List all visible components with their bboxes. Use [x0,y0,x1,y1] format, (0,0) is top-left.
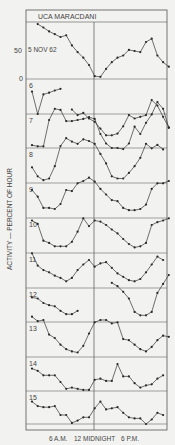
x-tick-6pm: 6 P.M. [121,435,139,442]
day-label: 10 [29,221,37,228]
activity-trace [32,89,61,114]
day-row-11: 11 [26,252,167,288]
day-row-14: 14 [26,360,167,391]
activity-trace [32,364,163,390]
day-row-10: 10 [26,217,170,253]
day-label: 7 [29,117,33,124]
activity-trace [32,138,163,180]
activity-trace [32,253,163,281]
chart-frame [26,10,167,430]
y-tick-0: 0 [19,75,23,82]
x-tick-midnight: 12 MIDNIGHT [74,435,115,442]
y-tick-50: 50 [14,47,22,54]
activity-trace [32,178,169,211]
activity-trace [112,275,169,315]
date-label: 5 NOV 62 [28,46,57,53]
x-tick-6am: 6 A.M. [49,435,68,442]
day-row-8: 8 [26,137,167,183]
chart-title: UCA MARACDANI [38,13,96,20]
day-label: 14 [29,360,37,367]
day-label: 11 [29,256,36,263]
y-axis-label: ACTIVITY — PERCENT OF HOUR [6,168,13,270]
day-row-12: 12 [26,274,170,322]
day-label: 6 [29,82,33,89]
day-row-15: 15 [26,394,167,425]
day-label: 8 [29,151,33,158]
activity-chart: UCA MARACDANI 5 NOV 62 50 0 ACTIVITY — P… [0,0,175,445]
activity-trace [32,402,163,424]
day-label: 13 [29,325,37,332]
day-label: 15 [29,394,37,401]
activity-trace [38,24,169,77]
